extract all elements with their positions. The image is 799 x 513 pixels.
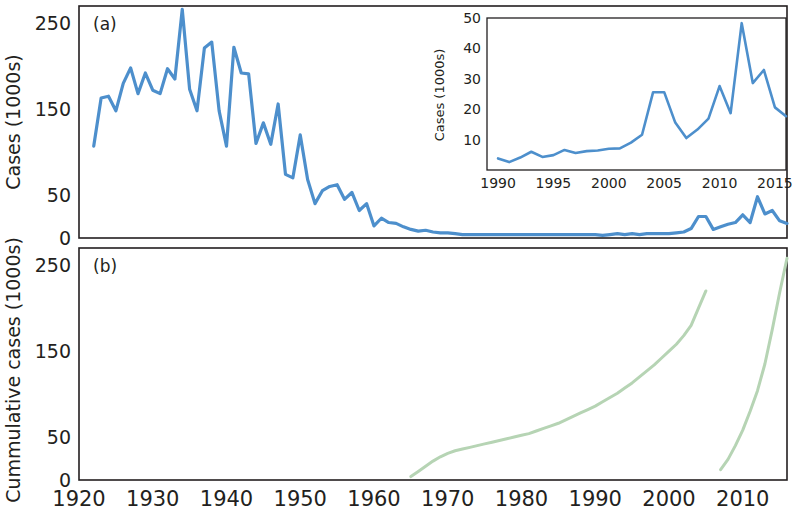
figure-container: 050150250 Cases (1000s) (a) 1020304050 1… (0, 0, 799, 513)
tick-label: 150 (35, 98, 71, 120)
tick-label: 1990 (569, 487, 622, 511)
tick-label: 40 (463, 40, 481, 56)
tick-label: 1950 (274, 487, 327, 511)
tick-label: 50 (47, 426, 71, 448)
panel-b-cumulative-recent-line (721, 258, 787, 469)
tick-label: 30 (463, 71, 481, 87)
panel-b-x-tick-labels: 1920193019401950196019701980199020002010 (52, 487, 769, 511)
tick-label: 1960 (347, 487, 400, 511)
panel-b-y-axis-title: Cummulative cases (1000s) (2, 237, 24, 503)
tick-label: 50 (463, 10, 481, 26)
tick-label: 1920 (52, 487, 105, 511)
tick-label: 2000 (591, 175, 627, 191)
panel-b-plot-frame (79, 248, 787, 480)
panel-b-label: (b) (93, 256, 117, 276)
tick-label: 2010 (716, 487, 769, 511)
tick-label: 50 (47, 184, 71, 206)
tick-label: 2015 (757, 175, 793, 191)
inset-panel: 1020304050 199019952000200520102015 Case… (432, 10, 793, 191)
inset-plot-frame (487, 18, 786, 170)
tick-label: 250 (35, 12, 71, 34)
tick-label: 1995 (536, 175, 572, 191)
tick-label: 20 (463, 101, 481, 117)
tick-label: 2005 (646, 175, 682, 191)
panel-b-y-tick-labels: 050150250 (35, 254, 71, 491)
epidemiology-case-chart: 050150250 Cases (1000s) (a) 1020304050 1… (0, 0, 799, 513)
tick-label: 1990 (480, 175, 516, 191)
inset-y-axis-title: Cases (1000s) (432, 49, 447, 142)
tick-label: 1930 (126, 487, 179, 511)
tick-label: 0 (59, 227, 71, 249)
tick-label: 1970 (421, 487, 474, 511)
tick-label: 250 (35, 254, 71, 276)
panel-a-y-axis-title: Cases (1000s) (2, 54, 24, 190)
tick-label: 1940 (200, 487, 253, 511)
tick-label: 150 (35, 340, 71, 362)
tick-label: 1980 (495, 487, 548, 511)
tick-label: 10 (463, 132, 481, 148)
tick-label: 2010 (702, 175, 738, 191)
panel-b: 050150250 192019301940195019601970198019… (2, 237, 787, 511)
inset-y-tick-labels: 1020304050 (463, 10, 481, 148)
tick-label: 2000 (642, 487, 695, 511)
inset-x-tick-labels: 199019952000200520102015 (480, 175, 792, 191)
panel-a-label: (a) (93, 14, 117, 34)
panel-b-cumulative-early-line (411, 291, 706, 477)
panel-a-y-tick-labels: 050150250 (35, 12, 71, 249)
